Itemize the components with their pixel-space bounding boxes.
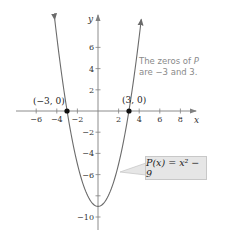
y-axis-ticks: 642−2−4−6−10	[77, 43, 100, 222]
y-tick-label: 6	[89, 43, 94, 52]
y-tick-label: −10	[77, 213, 94, 222]
y-tick-label: 2	[89, 86, 94, 95]
x-tick-label: 4	[137, 115, 142, 124]
y-tick-label: −6	[82, 171, 94, 180]
function-callout: P(x) = x² − 9	[145, 156, 207, 180]
parabola-graph: −6−4−22468 642−2−4−6−10 x y (−3, 0) (3, …	[0, 0, 226, 248]
zeros-annotation: The zeros of P are −3 and 3.	[139, 56, 219, 78]
zero-point-right	[126, 108, 131, 113]
y-tick-label: −4	[82, 149, 94, 158]
annotation-text-line2: are −3 and 3.	[139, 67, 197, 77]
x-tick-label: 8	[178, 115, 183, 124]
x-tick-label: −2	[72, 115, 84, 124]
x-tick-label: −4	[51, 115, 63, 124]
y-axis-label: y	[87, 14, 94, 24]
zero-label-right: (3, 0)	[122, 95, 146, 105]
function-label: P(x) = x² − 9	[146, 157, 206, 179]
x-tick-label: 2	[116, 115, 121, 124]
x-axis-label: x	[194, 115, 199, 125]
x-tick-label: −6	[30, 115, 42, 124]
x-tick-label: 6	[157, 115, 162, 124]
zero-label-left: (−3, 0)	[33, 96, 65, 106]
callout-pointer	[120, 163, 146, 175]
y-tick-label: 4	[89, 65, 94, 74]
annotation-text-p: P	[194, 56, 199, 66]
y-tick-label: −2	[82, 128, 94, 137]
zero-point-left	[64, 108, 69, 113]
annotation-text-a: The zeros of	[139, 56, 194, 66]
